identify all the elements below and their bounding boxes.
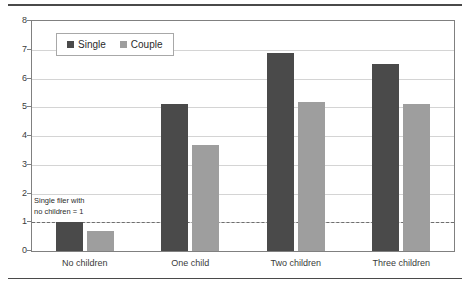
x-axis-category-label: One child bbox=[138, 258, 244, 268]
chart-legend: SingleCouple bbox=[56, 33, 174, 56]
legend-swatch-icon bbox=[120, 41, 127, 48]
y-axis-tick-label: 0 bbox=[3, 246, 27, 255]
y-axis-tick-label: 7 bbox=[3, 44, 27, 53]
x-axis-labels: No childrenOne childTwo childrenThree ch… bbox=[32, 258, 454, 268]
bar-single[interactable] bbox=[267, 53, 294, 251]
legend-label: Couple bbox=[131, 39, 163, 50]
y-axis-tick-label: 3 bbox=[3, 159, 27, 168]
bottom-divider-rule bbox=[8, 278, 462, 279]
x-axis-category-label: No children bbox=[32, 258, 138, 268]
y-axis-tick-label: 5 bbox=[3, 102, 27, 111]
y-axis: 012345678 bbox=[0, 20, 27, 252]
legend-item[interactable]: Single bbox=[67, 39, 106, 50]
top-divider-rule bbox=[8, 4, 462, 6]
bar-single[interactable] bbox=[56, 222, 83, 251]
bar-single[interactable] bbox=[161, 104, 188, 251]
bar-chart-figure: 012345678 No childrenOne childTwo childr… bbox=[0, 0, 470, 285]
x-axis-category-label: Three children bbox=[349, 258, 455, 268]
reference-line-annotation: Single filer with no children = 1 bbox=[34, 196, 84, 218]
bar-couple[interactable] bbox=[87, 231, 114, 251]
legend-swatch-icon bbox=[67, 41, 74, 48]
y-axis-tick-label: 8 bbox=[3, 16, 27, 25]
y-axis-tick-label: 1 bbox=[3, 217, 27, 226]
y-axis-tick-label: 2 bbox=[3, 188, 27, 197]
y-axis-tick-label: 4 bbox=[3, 131, 27, 140]
bar-group bbox=[243, 21, 349, 251]
bar-group bbox=[349, 21, 455, 251]
bar-single[interactable] bbox=[372, 64, 399, 251]
y-axis-tick-label: 6 bbox=[3, 73, 27, 82]
x-axis-category-label: Two children bbox=[243, 258, 349, 268]
bar-couple[interactable] bbox=[298, 102, 325, 252]
bar-couple[interactable] bbox=[192, 145, 219, 251]
legend-item[interactable]: Couple bbox=[120, 39, 163, 50]
bar-couple[interactable] bbox=[403, 104, 430, 251]
legend-label: Single bbox=[78, 39, 106, 50]
